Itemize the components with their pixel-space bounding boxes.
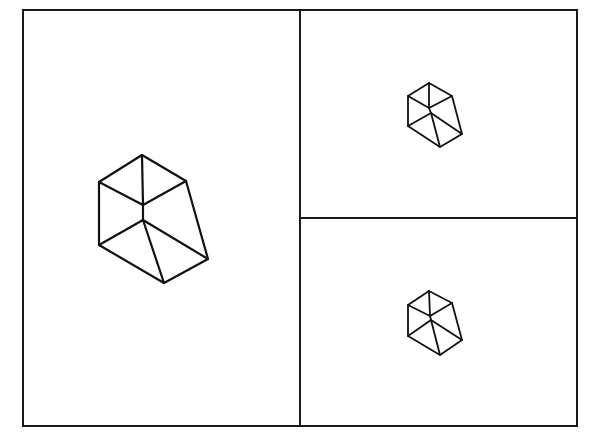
polyhedron-small-top — [408, 83, 462, 147]
polyhedron-small-bottom — [408, 291, 462, 355]
left-viewport[interactable] — [99, 155, 208, 283]
viewport-diagram — [0, 0, 593, 438]
polyhedron-large — [99, 155, 208, 283]
bottom-right-viewport[interactable] — [408, 291, 462, 355]
top-right-viewport[interactable] — [408, 83, 462, 147]
